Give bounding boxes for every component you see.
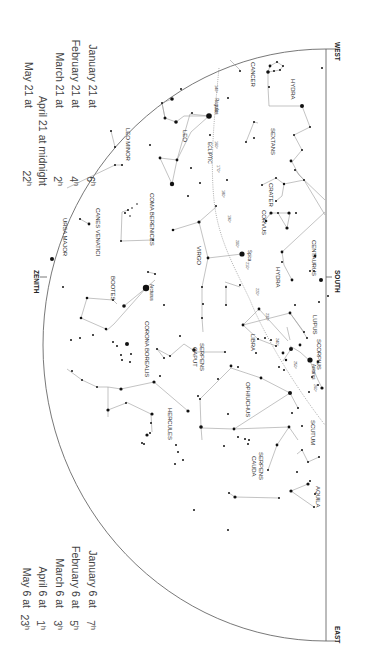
ecliptic-mark: 240° [275,338,279,346]
label-spica: Spica [247,250,252,262]
ecliptic-mark: 140° [214,85,218,93]
ecliptic-mark: 150° [214,106,218,114]
zenith-label: ZENITH [33,270,40,294]
label-canes-venatici: CANES VENATICI [95,208,101,257]
east-label: EAST [334,626,341,643]
ecliptic-mark: 180° [221,190,225,198]
star-arcturus [143,285,149,291]
label-ursa-major: URSA MAJOR [62,218,68,257]
star-labels: Regulus Spica Arcturus Antares [149,98,316,380]
constellation-labels: CANCER HYDRA LEO MINOR LEO SEXTANS URSA … [62,62,322,508]
ecliptic-mark: 190° [227,215,231,223]
star-chart: ZENITH WEST SOUTH EAST [0,0,365,651]
label-ophiuchus: OPHIUCHUS [245,382,251,417]
label-aquila: AQUILA [315,486,321,508]
ecliptic-mark: 200° [235,240,239,248]
label-corvus: CORVUS [261,210,267,235]
label-cancer: CANCER [250,62,256,88]
star-regulus [206,113,212,119]
stars [50,61,329,531]
label-serpens-caput-2: CAPUT [192,347,198,367]
label-hydra-w: HYDRA [290,79,296,100]
constellation-lines [67,60,325,507]
label-ecliptic: ECLIPTIC [207,142,213,164]
ecliptic-mark: 260° [313,384,317,392]
label-hydra-s: HYDRA [275,267,281,288]
star-antares [307,357,312,362]
ecliptic-mark: 170° [216,165,220,173]
label-virgo: VIRGO [196,246,202,265]
west-label: WEST [334,42,341,61]
south-label: SOUTH [334,270,341,293]
label-libra: LIBRA [250,334,256,351]
ecliptic-mark: 250° [293,361,297,369]
star-spica [239,251,244,256]
ecliptic-mark: 230° [265,313,269,321]
ecliptic-mark: 160° [214,141,218,149]
label-leo: LEO [182,130,188,142]
label-corona-borealis: CORONA BOREALIS [144,321,150,377]
label-centaurus: CENTAURUS [311,240,317,276]
label-lupus: LUPUS [312,315,318,335]
label-crater: CRATER [268,183,274,207]
label-hercules: HERCULES [167,408,173,440]
ecliptic-mark: 210° [245,262,249,270]
label-serpens-cauda-2: CAUDA [251,456,257,477]
label-bootes: BOOTES [110,276,116,301]
label-arcturus: Arcturus [149,284,154,302]
label-serpens-cauda-1: SERPENS [258,452,264,480]
label-antares: Antares [311,364,316,380]
ecliptic-mark: 220° [255,288,259,296]
label-serpens-caput-1: SERPENS [199,343,205,371]
label-leo-minor: LEO MINOR [125,128,131,162]
label-coma-berenices: COMA BERENICES [149,193,155,246]
label-scutum: SCUTUM [310,420,316,445]
label-sextans: SEXTANS [270,128,276,155]
